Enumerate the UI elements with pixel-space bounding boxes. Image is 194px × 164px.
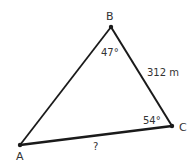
side-BC-label: 312 m: [147, 67, 179, 78]
vertex-C-point: [170, 124, 174, 128]
side-AC-label: ?: [93, 141, 98, 152]
triangle-diagram: B A C 47° 54° 312 m ?: [0, 0, 194, 164]
triangle-edges: [20, 27, 172, 145]
vertex-B-label: B: [106, 10, 114, 23]
angle-C-label: 54°: [143, 115, 161, 126]
vertex-C-label: C: [179, 121, 187, 134]
angle-B-label: 47°: [101, 47, 119, 58]
vertex-A-point: [18, 143, 22, 147]
vertex-B-point: [109, 25, 113, 29]
edge-AB: [20, 27, 111, 145]
vertex-A-label: A: [16, 150, 24, 163]
